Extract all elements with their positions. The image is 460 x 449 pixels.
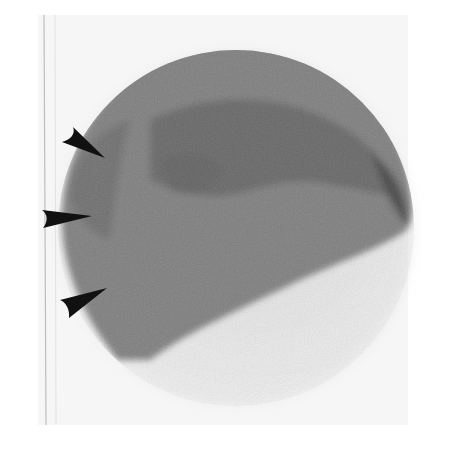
scan-svg (0, 0, 460, 449)
scan-image (0, 0, 460, 449)
